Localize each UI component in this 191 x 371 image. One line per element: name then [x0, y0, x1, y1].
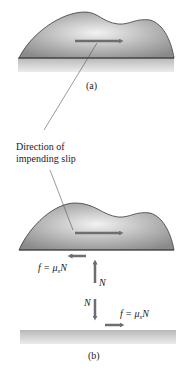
friction-label-lower: f = μsN — [120, 308, 149, 323]
panel-b — [19, 170, 176, 344]
rough-body-b — [19, 203, 174, 250]
ground-surface-b — [20, 330, 176, 344]
rough-body-a — [19, 12, 174, 58]
panel-a — [18, 12, 174, 130]
normal-label-upper: N — [99, 277, 106, 289]
diagram-canvas — [0, 0, 191, 371]
ground-surface-a — [18, 58, 174, 72]
friction-diagram: (a) Direction of impending slip f = μsN … — [0, 0, 191, 371]
friction-label-upper: f = μsN — [38, 262, 67, 277]
panel-a-label: (a) — [86, 80, 97, 92]
callout-line2: impending slip — [16, 153, 76, 165]
callout-line1: Direction of — [16, 141, 65, 153]
panel-b-label: (b) — [88, 350, 100, 362]
normal-label-lower: N — [84, 297, 91, 309]
